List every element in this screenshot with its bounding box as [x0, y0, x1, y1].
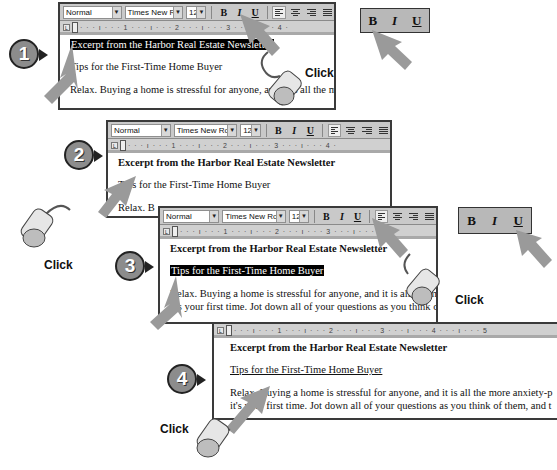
click-label-1: Click: [305, 66, 334, 80]
click-label-2: Click: [44, 258, 73, 272]
click-label-3: Click: [455, 293, 484, 307]
click-label-4: Click: [160, 422, 189, 436]
